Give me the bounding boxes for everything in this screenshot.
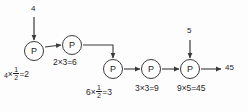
operation-label-node-5: 9 × 5 =45	[177, 83, 205, 93]
input-value-5: 5	[187, 26, 191, 35]
operation-label-node-3: 6 × 1 2 =3	[86, 84, 112, 99]
op3-operator: ×	[91, 87, 96, 97]
process-node-1[interactable]: P	[24, 41, 44, 61]
op3-result: =3	[102, 87, 112, 97]
op3-fraction-denominator: 2	[96, 91, 102, 99]
op1-operand-a: 4	[4, 72, 8, 79]
wire-node1-to-node2	[45, 45, 61, 47]
process-node-3[interactable]: P	[103, 59, 123, 79]
operation-label-node-1: 4 × 1 2 =2	[4, 66, 29, 81]
op3-fraction-numerator: 1	[96, 84, 102, 91]
op3-fraction: 1 2	[96, 84, 102, 99]
process-node-4[interactable]: P	[141, 59, 161, 79]
op2-result: =6	[67, 57, 77, 67]
op1-fraction-denominator: 2	[13, 73, 19, 81]
op4-result: =9	[149, 83, 159, 93]
op1-result: =2	[19, 69, 29, 79]
flow-diagram: 4 5 45 P P P P P 4 × 1 2 =2 2 × 3 =6 6 ×…	[0, 0, 248, 112]
operation-label-node-4: 3 × 3 =9	[135, 83, 159, 93]
process-node-5[interactable]: P	[180, 59, 200, 79]
op5-result: =45	[191, 83, 205, 93]
op1-operator: ×	[8, 69, 13, 79]
operation-label-node-2: 2 × 3 =6	[53, 57, 77, 67]
op1-fraction: 1 2	[13, 66, 19, 81]
process-node-2[interactable]: P	[62, 35, 82, 55]
final-output-value: 45	[225, 63, 234, 72]
op1-fraction-numerator: 1	[13, 66, 19, 73]
input-value-4: 4	[31, 4, 35, 13]
wire-node2-to-node3	[83, 45, 113, 58]
